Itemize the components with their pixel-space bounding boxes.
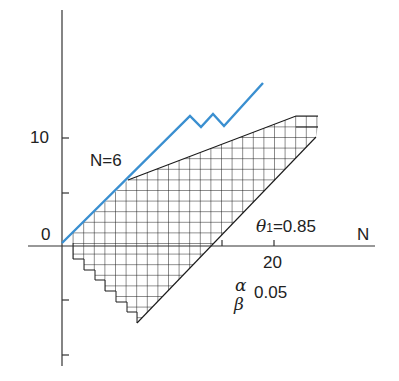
annotation-theta: θ1=0.85 [256,218,316,235]
alpha-beta-value: 0.05 [254,284,287,301]
theta-value: =0.85 [273,217,316,236]
chart-canvas [0,0,399,381]
theta-symbol: θ [256,216,266,236]
x-tick-label-20: 20 [263,254,282,271]
beta-symbol: β [234,296,244,313]
theta-subscript: 1 [266,221,273,235]
annotation-n6: N=6 [90,152,122,169]
y-tick-label-10: 10 [30,129,49,146]
y-tick-label-0: 0 [41,226,50,243]
x-axis-label: N [357,226,369,243]
alpha-symbol: α [235,277,246,294]
